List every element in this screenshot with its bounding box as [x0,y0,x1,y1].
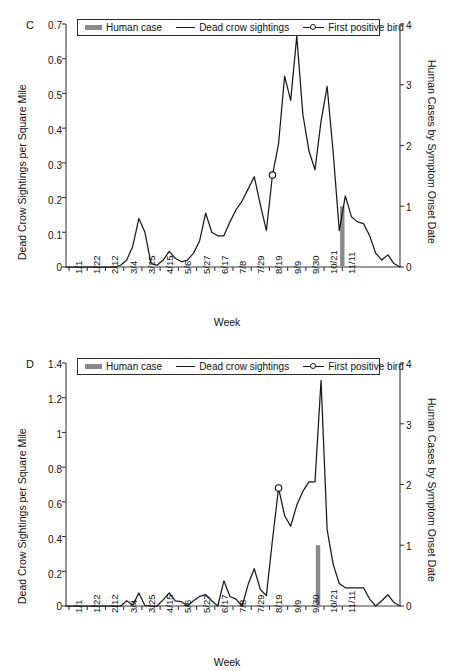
x-tick-label-1-1: 1/1 [73,600,84,613]
x-axis-label-c: Week [0,316,454,328]
x-tick-label-3-4: 3/4 [128,600,139,613]
x-tick-label-2-12: 2/12 [109,595,120,614]
x-tick-label-9-9: 9/9 [292,261,303,274]
dead-crow-sightings-line [66,36,400,267]
x-tick-label-3-4: 3/4 [128,261,139,274]
x-tick-label-9-9: 9/9 [292,600,303,613]
y-axis-label-left-d: Dead Crow Sightings per Square Mile [16,428,28,604]
x-tick-label-1-22: 1/22 [91,595,102,614]
x-tick-label-10-21: 10/21 [328,250,339,274]
x-tick-label-7-29: 7/29 [255,256,266,275]
first-positive-bird-marker [275,485,281,491]
x-tick-label-4-15: 4/15 [164,595,175,614]
x-axis-label-d: Week [0,656,454,668]
x-tick-label-7-8: 7/8 [237,261,248,274]
x-tick-label-1-22: 1/22 [91,256,102,275]
x-tick-label-3-25: 3/25 [146,595,157,614]
first-positive-bird-marker [269,172,275,178]
x-tick-label-9-30: 9/30 [310,256,321,275]
x-tick-label-3-25: 3/25 [146,256,157,275]
x-tick-label-9-30: 9/30 [310,595,321,614]
y-axis-label-left-c: Dead Crow Sightings per Square Mile [16,84,28,260]
x-tick-label-5-27: 5/27 [201,595,212,614]
x-tick-label-6-17: 6/17 [219,256,230,275]
x-tick-label-8-19: 8/19 [273,595,284,614]
x-tick-label-7-29: 7/29 [255,595,266,614]
panel-d: D Dead Crow Sightings per Square Mile Hu… [0,336,454,671]
x-tick-label-11-11: 11/11 [346,252,357,274]
dead-crow-sightings-line [66,380,400,606]
x-tick-label-10-21: 10/21 [328,589,339,613]
x-tick-label-7-8: 7/8 [237,600,248,613]
x-tick-label-5-6: 5/6 [182,261,193,274]
x-tick-label-11-11: 11/11 [346,591,357,613]
panel-c: C Dead Crow Sightings per Square Mile Hu… [0,0,454,336]
x-tick-label-5-27: 5/27 [201,256,212,275]
x-tick-label-5-6: 5/6 [182,600,193,613]
x-tick-label-2-12: 2/12 [109,256,120,275]
x-tick-label-6-17: 6/17 [219,595,230,614]
x-tick-label-4-15: 4/15 [164,256,175,275]
x-tick-label-8-19: 8/19 [273,256,284,275]
x-tick-label-1-1: 1/1 [73,261,84,274]
